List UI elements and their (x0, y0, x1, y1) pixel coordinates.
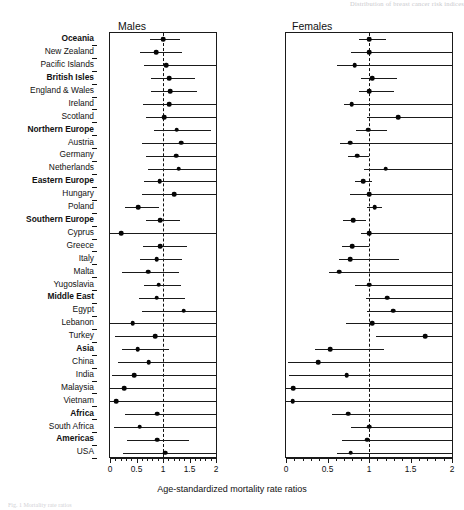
category-tick (92, 303, 97, 304)
confidence-interval-line (342, 246, 369, 247)
confidence-interval-line (110, 323, 216, 324)
point-estimate-marker (168, 89, 173, 94)
figure-caption-fragment: Fig. 1 Mortality rate ratios (8, 502, 456, 510)
x-axis-major-tick (411, 458, 412, 463)
category-tick (92, 135, 97, 136)
x-axis-minor-tick (427, 458, 428, 461)
confidence-interval-line (289, 375, 452, 376)
category-tick (92, 200, 97, 201)
x-axis-minor-tick (158, 458, 159, 461)
x-axis-minor-tick (205, 458, 206, 461)
confidence-interval-line (361, 233, 452, 234)
null-reference-line (369, 33, 370, 457)
point-estimate-marker (154, 257, 159, 262)
point-estimate-marker (366, 128, 371, 133)
point-estimate-marker (350, 244, 355, 249)
point-estimate-marker (163, 450, 168, 455)
x-axis-major-tick (216, 458, 217, 463)
x-axis-major-tick (190, 458, 191, 463)
category-tick (92, 368, 97, 369)
category-tick (92, 45, 97, 46)
category-tick (92, 109, 97, 110)
point-estimate-marker (355, 153, 360, 158)
confidence-interval-line (337, 453, 452, 454)
x-axis-tick-label: 1.5 (405, 464, 417, 474)
confidence-interval-line (344, 104, 452, 105)
x-axis-minor-tick (394, 458, 395, 461)
confidence-interval-line (118, 362, 216, 363)
point-estimate-marker (383, 166, 388, 171)
point-estimate-marker (132, 373, 137, 378)
x-axis-minor-tick (336, 458, 337, 461)
confidence-interval-line (112, 375, 216, 376)
confidence-interval-line (286, 401, 452, 402)
point-estimate-marker (155, 412, 160, 417)
confidence-interval-line (350, 194, 452, 195)
confidence-interval-line (110, 401, 216, 402)
point-estimate-marker (291, 386, 296, 391)
x-axis-minor-tick (179, 458, 180, 461)
point-estimate-marker (349, 102, 354, 107)
confidence-interval-line (146, 220, 180, 221)
confidence-interval-line (144, 285, 181, 286)
confidence-interval-line (376, 336, 452, 337)
point-estimate-marker (119, 231, 124, 236)
x-axis-major-tick (163, 458, 164, 463)
plot-panel-females (285, 32, 453, 458)
category-tick (92, 290, 97, 291)
point-estimate-marker (135, 347, 140, 352)
confidence-interval-line (144, 65, 216, 66)
x-axis-minor-tick (184, 458, 185, 461)
confidence-interval-line (122, 349, 170, 350)
plot-area-females (286, 33, 452, 457)
x-axis-minor-tick (361, 458, 362, 461)
confidence-interval-line (315, 349, 384, 350)
x-axis-minor-tick (211, 458, 212, 461)
confidence-interval-line (115, 336, 216, 337)
point-estimate-marker (162, 115, 167, 120)
point-estimate-marker (348, 257, 353, 262)
confidence-interval-line (122, 272, 179, 273)
x-axis-minor-tick (152, 458, 153, 461)
confidence-interval-line (329, 272, 452, 273)
confidence-interval-line (142, 311, 216, 312)
point-estimate-marker (167, 76, 172, 81)
category-tick (92, 174, 97, 175)
point-estimate-marker (344, 373, 349, 378)
confidence-interval-line (144, 181, 216, 182)
confidence-interval-line (346, 323, 452, 324)
x-axis-tick-label: 0 (284, 464, 289, 474)
point-estimate-marker (385, 295, 390, 300)
confidence-interval-line (146, 156, 216, 157)
point-estimate-marker (130, 321, 135, 326)
category-tick (92, 187, 97, 188)
category-tick (92, 419, 97, 420)
plot-panel-males (109, 32, 217, 458)
x-axis-major-tick (452, 458, 453, 463)
x-axis-minor-tick (115, 458, 116, 461)
category-tick (92, 84, 97, 85)
point-estimate-marker (373, 205, 378, 210)
point-estimate-marker (156, 282, 161, 287)
x-axis-minor-tick (344, 458, 345, 461)
confidence-interval-line (140, 52, 182, 53)
point-estimate-marker (361, 179, 366, 184)
x-axis-minor-tick (168, 458, 169, 461)
category-tick (92, 277, 97, 278)
confidence-interval-line (146, 117, 216, 118)
x-axis-minor-tick (319, 458, 320, 461)
x-axis-major-tick (137, 458, 138, 463)
x-axis-minor-tick (444, 458, 445, 461)
point-estimate-marker (346, 412, 351, 417)
x-axis-major-tick (110, 458, 111, 463)
category-tick (92, 239, 97, 240)
point-estimate-marker (367, 424, 372, 429)
confidence-interval-line (139, 298, 186, 299)
point-estimate-marker (161, 37, 166, 42)
category-tick (92, 71, 97, 72)
category-tick (92, 355, 97, 356)
point-estimate-marker (367, 192, 372, 197)
x-axis-tick-label: 0 (108, 464, 113, 474)
x-axis-tick-label: 2 (450, 464, 455, 474)
confidence-interval-line (148, 169, 216, 170)
